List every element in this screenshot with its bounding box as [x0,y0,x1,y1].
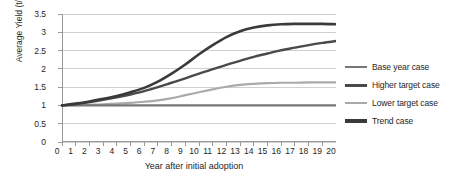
x-tick-label: 1 [68,146,73,156]
legend-item[interactable]: Higher target case [345,76,453,94]
x-tick-label: 2 [82,146,87,156]
x-tick-label: 8 [164,146,169,156]
x-tick-label: 16 [271,146,280,156]
legend-item[interactable]: Lower target case [345,94,453,112]
legend-swatch-icon [345,102,367,105]
x-tick-label: 9 [178,146,183,156]
x-tick-label: 18 [299,146,308,156]
legend-item-label: Lower target case [372,98,438,108]
x-tick-label: 14 [244,146,253,156]
y-tick-label: 1.5 [34,82,46,92]
y-tick-label: 3 [41,27,46,37]
x-tick-label: 12 [217,146,226,156]
legend-item-label: Higher target case [372,80,440,90]
x-tick-label: 3 [96,146,101,156]
x-tick-label: 0 [55,146,60,156]
x-tick-label: 13 [230,146,239,156]
legend: Base year caseHigher target caseLower ta… [345,58,453,130]
y-tick-label: 0 [41,137,46,147]
x-tick-label: 20 [326,146,335,156]
y-tick-label: 0.5 [34,119,46,129]
legend-item-label: Base year case [372,62,429,72]
x-tick-label: 10 [189,146,198,156]
legend-swatch-icon [345,119,367,122]
chart-container: Average Yield (t/ha) 00.511.522.533.5 01… [0,0,455,193]
x-axis-title: Year after initial adoption [57,161,331,171]
x-tick-label: 17 [285,146,294,156]
x-tick-label: 6 [137,146,142,156]
x-tick-label: 11 [203,146,212,156]
x-axis-tick-labels: 01234567891011121314151617181920 [57,146,331,158]
legend-item-label: Trend case [372,116,413,126]
y-tick-label: 1 [41,100,46,110]
x-tick-label: 4 [109,146,114,156]
y-tick-label: 2.5 [34,46,46,56]
y-tick-label: 3.5 [34,9,46,19]
y-axis-tick-labels: 00.511.522.533.5 [16,9,48,147]
y-tick-label: 2 [41,64,46,74]
legend-swatch-icon [345,66,367,69]
x-tick-label: 19 [313,146,322,156]
x-tick-label: 5 [123,146,128,156]
legend-item[interactable]: Trend case [345,112,453,130]
x-tick-label: 7 [151,146,156,156]
legend-swatch-icon [345,84,367,87]
x-tick-label: 15 [258,146,267,156]
legend-item[interactable]: Base year case [345,58,453,76]
series-line [62,82,336,105]
plot-svg [57,14,336,148]
plot-area [57,14,331,142]
